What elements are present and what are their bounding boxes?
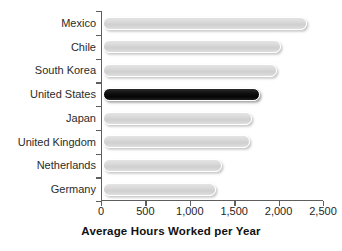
bar-row xyxy=(103,64,323,78)
y-tick-mark xyxy=(96,59,102,60)
bar-row xyxy=(103,135,323,149)
category-label-japan: Japan xyxy=(66,112,96,124)
bar-netherlands[interactable] xyxy=(103,159,222,172)
category-label-south-korea: South Korea xyxy=(35,64,96,76)
bar-germany[interactable] xyxy=(103,183,216,196)
bar-row xyxy=(103,16,323,30)
y-tick-mark xyxy=(96,154,102,155)
x-axis-title: Average Hours Worked per Year xyxy=(0,225,342,237)
category-label-netherlands: Netherlands xyxy=(37,159,96,171)
x-tick-label-500: 500 xyxy=(136,205,154,218)
x-tick-label-0: 0 xyxy=(98,205,104,218)
category-axis-labels: Mexico Chile South Korea United States J… xyxy=(0,11,96,201)
y-tick-mark xyxy=(96,130,102,131)
bar-chart: Mexico Chile South Korea United States J… xyxy=(0,0,342,251)
bar-row xyxy=(103,182,323,196)
bar-row xyxy=(103,111,323,125)
y-tick-mark xyxy=(96,177,102,178)
bar-chile[interactable] xyxy=(103,40,281,53)
bar-row xyxy=(103,40,323,54)
y-tick-mark xyxy=(96,106,102,107)
bar-row xyxy=(103,87,323,101)
category-label-united-states: United States xyxy=(30,88,96,100)
y-tick-mark xyxy=(96,11,102,12)
y-tick-mark xyxy=(96,82,102,83)
bar-mexico[interactable] xyxy=(103,17,307,30)
plot-area xyxy=(101,11,323,201)
category-label-germany: Germany xyxy=(51,183,96,195)
x-tick-label-1000: 1,000 xyxy=(176,205,204,218)
x-tick-label-2000: 2,000 xyxy=(265,205,293,218)
bar-south-korea[interactable] xyxy=(103,64,277,77)
bar-series xyxy=(103,11,323,201)
y-tick-mark xyxy=(96,35,102,36)
x-tick-label-1500: 1,500 xyxy=(220,205,248,218)
bar-united-states[interactable] xyxy=(103,88,260,101)
bar-united-kingdom[interactable] xyxy=(103,135,250,148)
category-label-mexico: Mexico xyxy=(61,17,96,29)
x-axis-tick-labels: 0 500 1,000 1,500 2,000 2,500 xyxy=(101,205,323,219)
bar-row xyxy=(103,159,323,173)
category-label-chile: Chile xyxy=(71,41,96,53)
x-tick-label-2500: 2,500 xyxy=(309,205,337,218)
category-label-united-kingdom: United Kingdom xyxy=(18,136,96,148)
bar-japan[interactable] xyxy=(103,112,252,125)
